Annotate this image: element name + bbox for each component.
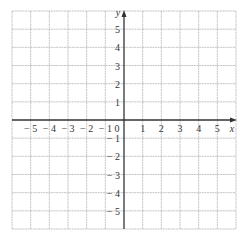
y-tick-label: 3 (115, 61, 120, 72)
x-tick-label: 4 (196, 123, 201, 134)
y-tick-label: − 3 (107, 170, 120, 181)
y-tick-label: 4 (115, 42, 120, 53)
x-tick-label: − 2 (80, 123, 93, 134)
y-tick-label: − 2 (107, 151, 120, 162)
x-tick-label: − 5 (24, 123, 37, 134)
tick-labels: − 5− 4− 3− 2− 101234554321− 1− 2− 3− 4− … (24, 7, 235, 217)
axes (12, 10, 237, 229)
x-tick-label: 2 (159, 123, 164, 134)
x-tick-label: 5 (215, 123, 220, 134)
y-tick-label: − 1 (107, 133, 120, 144)
y-axis-label: y (115, 7, 121, 18)
y-tick-label: − 4 (107, 188, 120, 199)
x-tick-label: − 4 (43, 123, 56, 134)
y-tick-label: 1 (115, 97, 120, 108)
y-tick-label: 2 (115, 79, 120, 90)
x-tick-label: − 3 (61, 123, 74, 134)
y-tick-label: − 5 (107, 206, 120, 217)
coordinate-grid: − 5− 4− 3− 2− 101234554321− 1− 2− 3− 4− … (0, 0, 247, 243)
y-tick-label: 5 (115, 24, 120, 35)
x-tick-label: 3 (178, 123, 183, 134)
x-axis-label: x (229, 123, 235, 134)
x-tick-label: 1 (140, 123, 145, 134)
